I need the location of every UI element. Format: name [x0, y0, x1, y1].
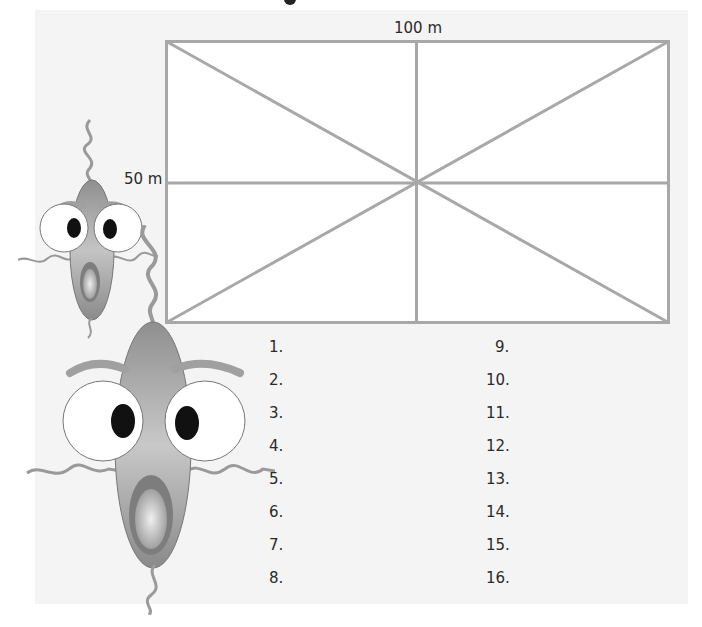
answer-line-14: 14. [486, 503, 510, 521]
answer-line-2: 2. [269, 371, 283, 389]
answer-line-9: 9. [495, 338, 509, 356]
answer-line-6: 6. [269, 503, 283, 521]
answer-line-5: 5. [269, 470, 283, 488]
answer-line-7: 7. [269, 536, 283, 554]
answer-line-4: 4. [269, 437, 283, 455]
answer-line-1: 1. [269, 338, 283, 356]
answer-line-12: 12. [486, 437, 510, 455]
answer-line-15: 15. [486, 536, 510, 554]
answer-line-3: 3. [269, 404, 283, 422]
answer-line-11: 11. [486, 404, 510, 422]
answer-line-16: 16. [486, 569, 510, 587]
width-label: 100 m [394, 19, 442, 37]
answer-line-10: 10. [486, 371, 510, 389]
answer-line-13: 13. [486, 470, 510, 488]
large-character-illustration [25, 225, 275, 615]
answer-line-8: 8. [269, 569, 283, 587]
